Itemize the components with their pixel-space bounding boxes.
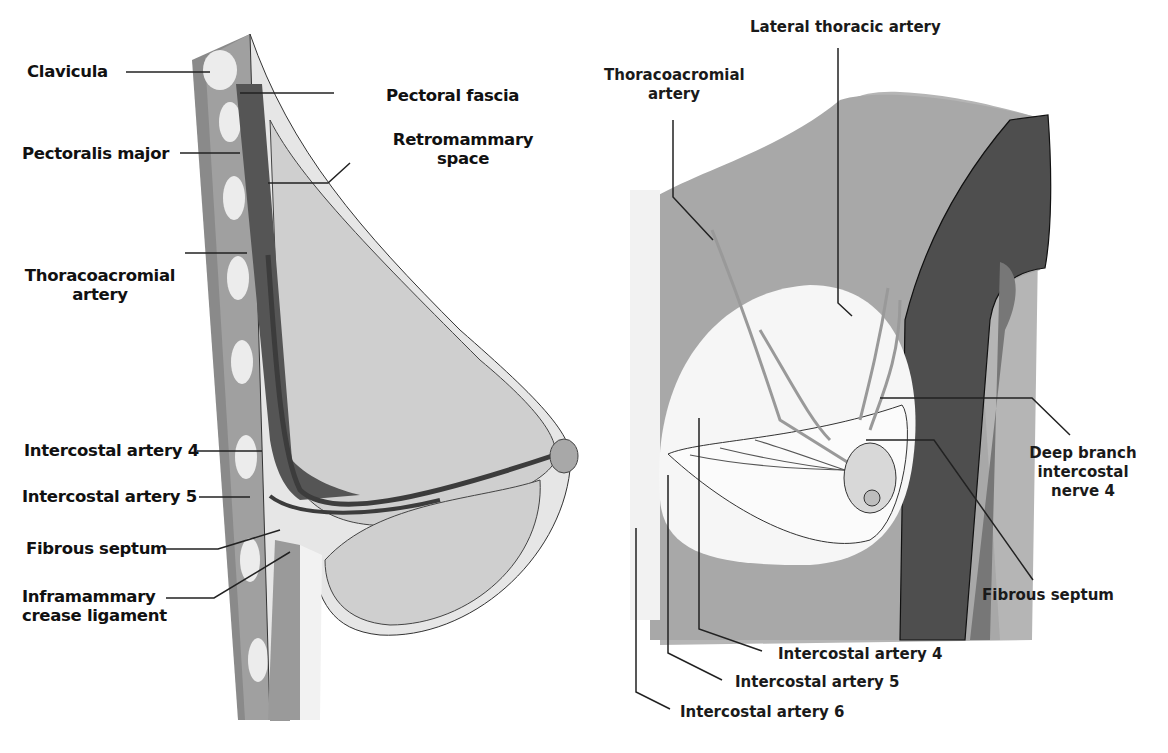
label-deep-branch-intercostal-nerve-4: Deep branch intercostal nerve 4: [1008, 444, 1158, 501]
anatomy-illustration: [0, 0, 1168, 753]
label-fibrous-septum-left: Fibrous septum: [26, 539, 167, 558]
label-inframammary-crease-ligament: Inframammary crease ligament: [22, 587, 167, 625]
label-lateral-thoracic-artery: Lateral thoracic artery: [750, 18, 941, 37]
label-intercostal-artery-4-right: Intercostal artery 4: [778, 645, 942, 664]
label-intercostal-artery-5-left: Intercostal artery 5: [22, 487, 197, 506]
label-retromammary-space: Retromammary space: [388, 130, 538, 168]
label-intercostal-artery-5-right: Intercostal artery 5: [735, 673, 899, 692]
label-thoracoacromial-artery-right: Thoracoacromial artery: [604, 66, 744, 104]
label-intercostal-artery-6-right: Intercostal artery 6: [680, 703, 844, 722]
label-pectoralis-major: Pectoralis major: [22, 144, 169, 163]
right-frontal-drawing: [630, 48, 1070, 709]
label-thoracoacromial-artery-left: Thoracoacromial artery: [24, 266, 176, 304]
label-fibrous-septum-right: Fibrous septum: [982, 586, 1114, 605]
label-intercostal-artery-4-left: Intercostal artery 4: [24, 441, 199, 460]
label-pectoral-fascia: Pectoral fascia: [386, 86, 519, 105]
label-clavicula: Clavicula: [27, 62, 108, 81]
